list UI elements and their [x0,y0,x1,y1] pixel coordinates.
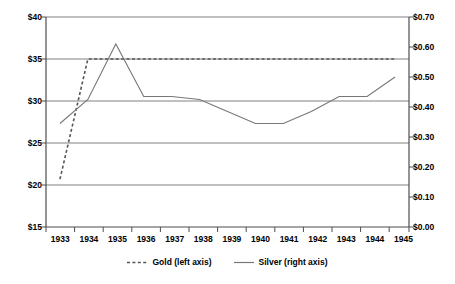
legend-swatch-solid-icon [234,259,254,266]
x-tick-label: 1944 [361,235,390,244]
x-tick-label: 1934 [75,235,104,244]
legend-item-gold: Gold (left axis) [127,258,211,267]
x-tick-label: 1939 [218,235,247,244]
x-tick-label: 1937 [160,235,189,244]
x-tick-label: 1933 [46,235,75,244]
left-axis-ticks [41,17,46,227]
series-line-silver [60,44,395,124]
x-tick-label: 1936 [132,235,161,244]
legend-item-silver: Silver (right axis) [234,258,328,267]
gridlines [46,17,409,185]
legend-swatch-dashed-icon [127,259,147,266]
x-tick-label: 1935 [103,235,132,244]
x-tick-label: 1938 [189,235,218,244]
dual-axis-line-chart: $40 $35 $30 $25 $20 $15 $0.70 $0.60 $0.5… [0,0,455,284]
x-tick-label: 1943 [332,235,361,244]
x-tick-label: 1942 [303,235,332,244]
x-tick-label: 1940 [246,235,275,244]
x-axis-ticks [46,227,409,232]
legend-label-silver: Silver (right axis) [259,258,328,267]
legend-label-gold: Gold (left axis) [152,258,211,267]
chart-legend: Gold (left axis) Silver (right axis) [0,258,455,267]
x-tick-label: 1945 [389,235,418,244]
series-line-gold [60,59,395,179]
x-tick-label: 1941 [275,235,304,244]
right-axis-ticks [409,17,414,227]
axis-lines [46,17,409,227]
